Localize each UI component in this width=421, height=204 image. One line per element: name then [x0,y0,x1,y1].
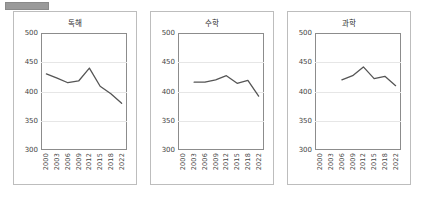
x-axis-tick-label: 2006 [201,153,209,170]
y-axis-tick-label: 450 [299,58,312,66]
series-line [41,33,127,150]
y-axis-tick-label: 450 [162,58,175,66]
x-axis-tick-label: 2009 [212,153,220,170]
x-axis-tick-label: 2009 [349,153,357,170]
x-axis-tick-label: 2000 [316,153,324,170]
x-axis-tick-label: 2015 [370,153,378,170]
chart-title: 수학 [151,17,273,28]
x-axis-tick-label: 2015 [96,153,104,170]
x-axis-tick-label: 2018 [381,153,389,170]
x-axis-tick-label: 2003 [327,153,335,170]
x-axis-tick-label: 2009 [75,153,83,170]
x-axis-tick-label: 2018 [107,153,115,170]
x-axis-tick-label: 2003 [190,153,198,170]
y-axis-tick-label: 300 [162,146,175,154]
y-axis-tick-label: 350 [162,117,175,125]
x-axis-tick-label: 2000 [42,153,50,170]
chart-panel-1: 독해30035040045050020002003200620092012201… [13,11,137,185]
series-polyline [342,67,396,86]
x-axis-tick-label: 2000 [179,153,187,170]
x-axis-tick-label: 2006 [338,153,346,170]
y-axis-tick-label: 300 [299,146,312,154]
chart-title: 독해 [14,17,136,28]
x-axis-tick-label: 2012 [85,153,93,170]
y-axis-tick-label: 300 [25,146,38,154]
series-line [315,33,401,150]
x-axis-tick-label: 2003 [53,153,61,170]
y-axis-tick-label: 400 [299,88,312,96]
y-axis-tick-label: 350 [25,117,38,125]
x-axis-tick-label: 2018 [244,153,252,170]
chart-title: 과학 [288,17,410,28]
chart-panel-group: 독해30035040045050020002003200620092012201… [0,11,421,187]
x-axis-tick-label: 2022 [392,153,400,170]
x-axis-tick-label: 2006 [64,153,72,170]
x-axis-tick-label: 2022 [255,153,263,170]
series-polyline [194,76,259,96]
y-axis-tick-label: 500 [162,29,175,37]
plot-area: 3003504004505002000200320062009201220152… [178,33,264,150]
chart-panel-2: 수학30035040045050020002003200620092012201… [150,11,274,185]
x-axis-tick-label: 2012 [222,153,230,170]
y-axis-tick-label: 450 [25,58,38,66]
series-polyline [46,68,121,103]
y-axis-tick-label: 500 [299,29,312,37]
y-axis-tick-label: 400 [25,88,38,96]
chart-panel-3: 과학30035040045050020002003200620092012201… [287,11,411,185]
gray-bar-marker [5,2,49,10]
y-axis-tick-label: 350 [299,117,312,125]
y-axis-tick-label: 400 [162,88,175,96]
series-line [178,33,264,150]
x-axis-tick-label: 2022 [118,153,126,170]
x-axis-tick-label: 2015 [233,153,241,170]
plot-area: 3003504004505002000200320062009201220152… [315,33,401,150]
x-axis-tick-label: 2012 [359,153,367,170]
plot-area: 3003504004505002000200320062009201220152… [41,33,127,150]
y-axis-tick-label: 500 [25,29,38,37]
